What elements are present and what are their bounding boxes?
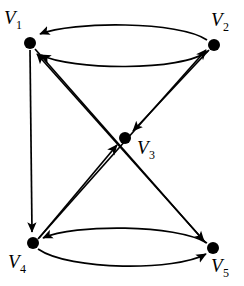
node-label-v5: V5 bbox=[211, 256, 229, 279]
node-v3[interactable] bbox=[119, 132, 131, 144]
edge-v5-v1 bbox=[37, 54, 206, 243]
graph-canvas bbox=[0, 0, 244, 286]
node-v5[interactable] bbox=[207, 242, 219, 254]
edge-layer bbox=[30, 25, 209, 266]
edge-v5-v4-upper bbox=[43, 228, 207, 243]
node-label-v3: V3 bbox=[137, 138, 155, 161]
node-v4[interactable] bbox=[27, 237, 39, 249]
node-v2[interactable] bbox=[208, 39, 220, 51]
edge-v4-v5-lower bbox=[38, 249, 206, 266]
edge-v1-v4 bbox=[30, 50, 32, 232]
edge-v2-v1-lower bbox=[41, 51, 208, 67]
directed-graph-figure: V1 V2 V3 V4 V5 bbox=[0, 0, 244, 286]
edge-v2-v1-upper bbox=[40, 25, 207, 40]
node-label-v2: V2 bbox=[211, 10, 229, 33]
node-label-v1: V1 bbox=[4, 8, 22, 31]
edge-v4-v2 bbox=[38, 50, 206, 239]
node-label-v4: V4 bbox=[8, 252, 26, 275]
node-v1[interactable] bbox=[24, 37, 36, 49]
